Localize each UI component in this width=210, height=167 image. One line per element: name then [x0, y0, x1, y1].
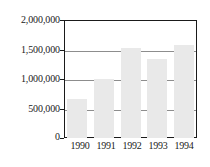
y-axis-label-1500000: 1,500,000 [0, 45, 60, 55]
bar-chart: 2,000,000 1,500,000 1,000,000 500,000 0 … [0, 0, 210, 167]
x-axis-labels: 1990 1991 1992 1993 1994 [64, 140, 197, 156]
gridline-1500000 [65, 51, 196, 52]
gridline-1000000 [65, 80, 196, 81]
y-axis-label-1000000: 1,000,000 [0, 74, 60, 84]
x-axis-label-1994: 1994 [166, 140, 202, 152]
y-axis-label-500000: 500,000 [0, 104, 60, 114]
y-axis-tick-0 [60, 138, 64, 139]
y-axis-label-0: 0 [0, 132, 60, 142]
plot-area [64, 20, 197, 138]
y-axis-label-2000000: 2,000,000 [0, 15, 60, 25]
gridline-500000 [65, 110, 196, 111]
